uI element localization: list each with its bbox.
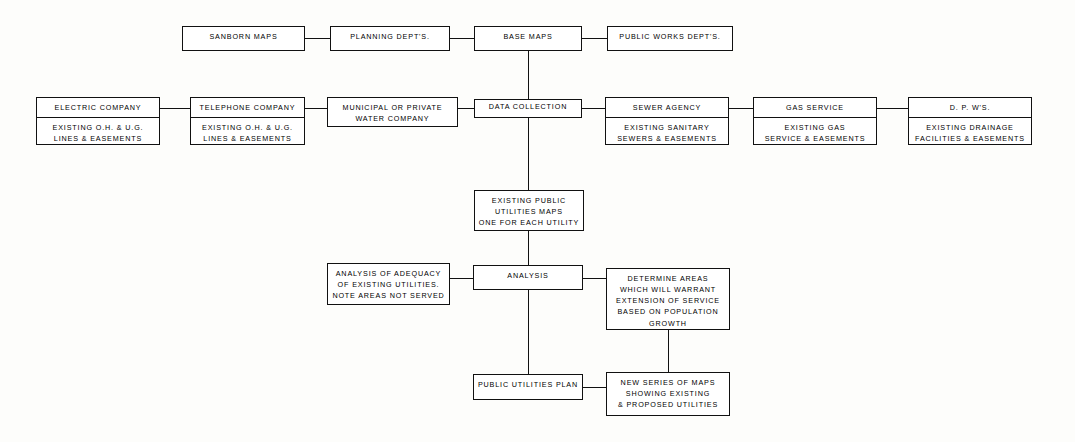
- node-new-series-of-maps-label: NEW SERIES OF MAPS SHOWING EXISTING & PR…: [607, 373, 729, 414]
- node-telephone-company[interactable]: TELEPHONE COMPANY EXISTING O.H. & U.G. L…: [190, 97, 305, 145]
- node-sewer-agency-detail: EXISTING SANITARY SEWERS & EASEMENTS: [606, 117, 728, 149]
- node-data-collection-label: DATA COLLECTION: [475, 100, 581, 113]
- node-dpws-label: D. P. W'S.: [909, 98, 1031, 117]
- node-analysis-of-adequacy-label: ANALYSIS OF ADEQUACY OF EXISTING UTILITI…: [328, 264, 449, 305]
- node-public-works-depts[interactable]: PUBLIC WORKS DEPT'S.: [607, 26, 733, 51]
- node-sanborn-maps[interactable]: SANBORN MAPS: [182, 26, 305, 51]
- flowchart-canvas: SANBORN MAPS PLANNING DEPT'S. BASE MAPS …: [0, 0, 1075, 442]
- node-existing-public-utilities-maps-label: EXISTING PUBLIC UTILITIES MAPS ONE FOR E…: [475, 191, 583, 232]
- connector-adequacy-to-analysis: [450, 278, 473, 279]
- node-planning-depts-label: PLANNING DEPT'S.: [331, 27, 449, 46]
- connector-sanborn-to-planning: [305, 38, 330, 39]
- connector-determineareas-to-newseries: [668, 330, 669, 372]
- node-electric-company-label: ELECTRIC COMPANY: [37, 98, 159, 117]
- node-gas-service[interactable]: GAS SERVICE EXISTING GAS SERVICE & EASEM…: [753, 97, 877, 145]
- node-water-company[interactable]: MUNICIPAL OR PRIVATE WATER COMPANY: [327, 97, 458, 127]
- node-dpws-detail: EXISTING DRAINAGE FACILITIES & EASEMENTS: [909, 117, 1031, 149]
- node-public-utilities-plan-label: PUBLIC UTILITIES PLAN: [474, 375, 582, 394]
- node-planning-depts[interactable]: PLANNING DEPT'S.: [330, 26, 450, 51]
- connector-telephone-to-water: [305, 108, 327, 109]
- connector-analysis-to-plan: [528, 290, 529, 374]
- connector-datacollection-to-sewer: [582, 108, 605, 109]
- connector-datacollection-to-utilitiesmaps: [528, 118, 529, 190]
- connector-water-to-datacollection: [458, 108, 474, 109]
- connector-analysis-to-determineareas: [583, 278, 606, 279]
- node-gas-service-detail: EXISTING GAS SERVICE & EASEMENTS: [754, 117, 876, 149]
- node-telephone-company-detail: EXISTING O.H. & U.G. LINES & EASEMENTS: [191, 117, 304, 149]
- node-analysis[interactable]: ANALYSIS: [473, 265, 583, 290]
- node-sewer-agency[interactable]: SEWER AGENCY EXISTING SANITARY SEWERS & …: [605, 97, 729, 145]
- node-analysis-of-adequacy[interactable]: ANALYSIS OF ADEQUACY OF EXISTING UTILITI…: [327, 263, 450, 305]
- connector-sewer-to-gas: [729, 108, 753, 109]
- node-sewer-agency-label: SEWER AGENCY: [606, 98, 728, 117]
- node-base-maps-label: BASE MAPS: [475, 27, 581, 46]
- node-electric-company-detail: EXISTING O.H. & U.G. LINES & EASEMENTS: [37, 117, 159, 149]
- connector-planning-to-basemaps: [450, 38, 474, 39]
- node-base-maps[interactable]: BASE MAPS: [474, 26, 582, 51]
- node-data-collection[interactable]: DATA COLLECTION: [474, 99, 582, 118]
- node-sanborn-maps-label: SANBORN MAPS: [183, 27, 304, 46]
- node-determine-areas-label: DETERMINE AREAS WHICH WILL WARRANT EXTEN…: [607, 269, 729, 333]
- node-existing-public-utilities-maps[interactable]: EXISTING PUBLIC UTILITIES MAPS ONE FOR E…: [474, 190, 584, 231]
- node-determine-areas[interactable]: DETERMINE AREAS WHICH WILL WARRANT EXTEN…: [606, 268, 730, 330]
- node-electric-company[interactable]: ELECTRIC COMPANY EXISTING O.H. & U.G. LI…: [36, 97, 160, 145]
- connector-basemaps-to-datacollection: [528, 50, 529, 100]
- connector-plan-to-newseries: [583, 387, 606, 388]
- node-public-utilities-plan[interactable]: PUBLIC UTILITIES PLAN: [473, 374, 583, 400]
- node-telephone-company-label: TELEPHONE COMPANY: [191, 98, 304, 117]
- node-dpws[interactable]: D. P. W'S. EXISTING DRAINAGE FACILITIES …: [908, 97, 1032, 145]
- connector-utilitiesmaps-to-analysis: [528, 231, 529, 265]
- node-new-series-of-maps[interactable]: NEW SERIES OF MAPS SHOWING EXISTING & PR…: [606, 372, 730, 416]
- connector-basemaps-to-publicworks: [582, 38, 607, 39]
- connector-electric-to-telephone: [160, 108, 190, 109]
- connector-gas-to-dpws: [877, 108, 908, 109]
- node-water-company-label: MUNICIPAL OR PRIVATE WATER COMPANY: [328, 98, 457, 128]
- node-analysis-label: ANALYSIS: [474, 266, 582, 285]
- node-gas-service-label: GAS SERVICE: [754, 98, 876, 117]
- node-public-works-depts-label: PUBLIC WORKS DEPT'S.: [608, 27, 732, 46]
